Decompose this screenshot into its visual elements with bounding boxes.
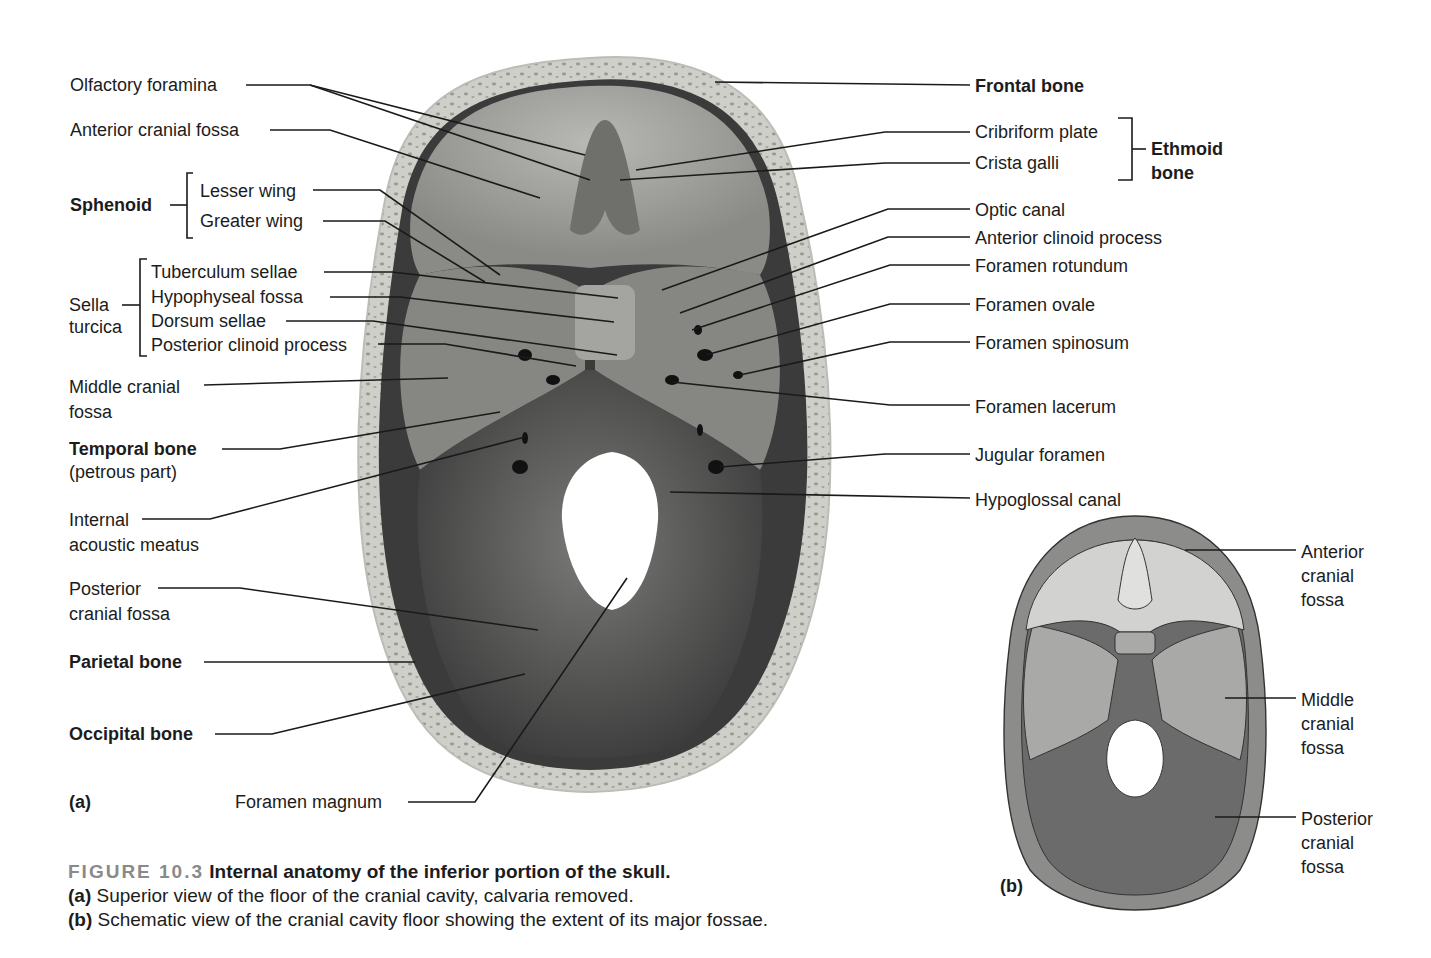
label-temporal-bone: Temporal bone xyxy=(69,438,197,460)
label-b-middle-cranial-fossa: Middle cranial fossa xyxy=(1301,688,1354,760)
label-parietal-bone: Parietal bone xyxy=(69,651,182,673)
label-internal-acoustic-meatus: Internal acoustic meatus xyxy=(69,508,199,558)
label-dorsum-sellae: Dorsum sellae xyxy=(151,310,266,332)
label-hypoglossal-canal: Hypoglossal canal xyxy=(975,489,1121,511)
caption-b-text: Schematic view of the cranial cavity flo… xyxy=(98,909,769,930)
panel-b-schematic xyxy=(1004,516,1296,910)
label-sella-turcica: Sella turcica xyxy=(69,294,122,338)
label-middle-cranial-fossa: Middle cranial fossa xyxy=(69,375,180,425)
panel-a-tag: (a) xyxy=(69,791,91,813)
caption-line-b: (b) Schematic view of the cranial cavity… xyxy=(68,908,968,932)
label-jugular-foramen: Jugular foramen xyxy=(975,444,1105,466)
schematic-foramen-magnum xyxy=(1107,720,1164,797)
label-b-anterior-cranial-fossa: Anterior cranial fossa xyxy=(1301,540,1364,612)
label-foramen-lacerum: Foramen lacerum xyxy=(975,396,1116,418)
label-hypophyseal-fossa: Hypophyseal fossa xyxy=(151,286,303,308)
label-sphenoid: Sphenoid xyxy=(70,194,152,216)
label-frontal-bone: Frontal bone xyxy=(975,75,1084,97)
caption-b-tag: (b) xyxy=(68,909,92,930)
label-tuberculum-sellae: Tuberculum sellae xyxy=(151,261,297,283)
label-foramen-spinosum: Foramen spinosum xyxy=(975,332,1129,354)
label-foramen-ovale: Foramen ovale xyxy=(975,294,1095,316)
figure-caption: FIGURE 10.3 Internal anatomy of the infe… xyxy=(68,860,968,932)
label-anterior-cranial-fossa: Anterior cranial fossa xyxy=(70,119,239,141)
label-posterior-clinoid-process: Posterior clinoid process xyxy=(151,334,347,356)
panel-b-tag: (b) xyxy=(1000,875,1023,897)
label-b-posterior-cranial-fossa: Posterior cranial fossa xyxy=(1301,807,1373,879)
label-crista-galli: Crista galli xyxy=(975,152,1059,174)
label-foramen-rotundum: Foramen rotundum xyxy=(975,255,1128,277)
label-posterior-cranial-fossa: Posterior cranial fossa xyxy=(69,577,170,627)
caption-title-line: FIGURE 10.3 Internal anatomy of the infe… xyxy=(68,860,968,884)
label-occipital-bone: Occipital bone xyxy=(69,723,193,745)
label-greater-wing: Greater wing xyxy=(200,210,303,232)
ethmoid-bracket xyxy=(1118,118,1132,180)
sella-turcica-bracket xyxy=(140,259,147,356)
label-anterior-clinoid-process: Anterior clinoid process xyxy=(975,227,1162,249)
sphenoid-bracket xyxy=(187,173,193,238)
caption-a-text: Superior view of the floor of the crania… xyxy=(97,885,634,906)
label-foramen-magnum: Foramen magnum xyxy=(235,791,382,813)
figure-canvas: Olfactory foramina Anterior cranial foss… xyxy=(0,0,1431,958)
label-lesser-wing: Lesser wing xyxy=(200,180,296,202)
caption-a-tag: (a) xyxy=(68,885,91,906)
label-olfactory-foramina: Olfactory foramina xyxy=(70,74,217,96)
label-petrous-part: (petrous part) xyxy=(69,461,177,483)
label-ethmoid-bone: Ethmoid bone xyxy=(1151,137,1223,185)
label-cribriform-plate: Cribriform plate xyxy=(975,121,1098,143)
label-optic-canal: Optic canal xyxy=(975,199,1065,221)
figure-number: FIGURE 10.3 xyxy=(68,861,204,882)
figure-title: Internal anatomy of the inferior portion… xyxy=(209,861,670,882)
caption-line-a: (a) Superior view of the floor of the cr… xyxy=(68,884,968,908)
